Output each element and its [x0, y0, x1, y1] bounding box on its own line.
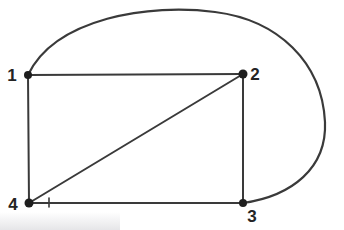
- vertex-dot-3: [239, 199, 247, 207]
- vertex-dot-4: [25, 199, 34, 208]
- graph-canvas: 1 2 3 4: [0, 0, 344, 230]
- vertex-dot-1: [24, 71, 32, 79]
- vertex-dot-2: [239, 70, 248, 79]
- edge-1-3-arc: [28, 10, 325, 203]
- edge-4-1: [28, 75, 29, 203]
- vertex-label-4: 4: [8, 195, 18, 214]
- edge-1-2: [28, 74, 243, 75]
- edge-4-2-diagonal: [29, 74, 243, 203]
- graph-figure: 1 2 3 4: [0, 0, 344, 230]
- vertex-label-1: 1: [7, 66, 16, 85]
- vertex-label-2: 2: [250, 65, 259, 84]
- vertex-label-3: 3: [247, 207, 256, 226]
